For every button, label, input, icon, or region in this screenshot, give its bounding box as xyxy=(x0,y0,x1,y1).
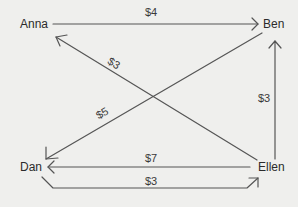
node-ben: Ben xyxy=(263,17,284,31)
amount-ellen-dan: $7 xyxy=(145,152,157,164)
edge-ellen-ben-arrow xyxy=(269,41,281,159)
amount-ellen-ben: $3 xyxy=(258,92,270,104)
node-ellen: Ellen xyxy=(258,160,285,174)
edge-ben-dan-arrow xyxy=(46,33,262,159)
node-dan: Dan xyxy=(20,160,42,174)
node-anna: Anna xyxy=(20,17,48,31)
amount-anna-ben: $4 xyxy=(145,6,157,18)
amount-dan-ellen: $3 xyxy=(145,175,157,187)
debt-diagram: Anna Ben Dan Ellen $4 $3 $5 $3 $7 $3 xyxy=(0,0,298,207)
edge-anna-ben-arrow xyxy=(53,18,258,30)
